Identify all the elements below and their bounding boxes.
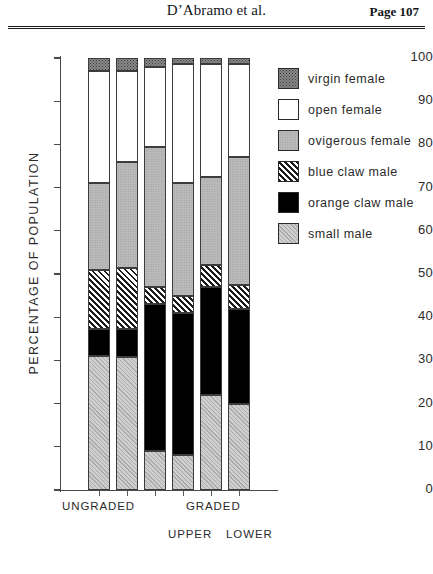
bar-column [116, 58, 138, 490]
bar-segment-ovigerous-female [116, 162, 138, 268]
x-label-ungraded: UNGRADED [62, 500, 135, 512]
legend-label: blue claw male [308, 165, 398, 179]
bar-segment-small-male [200, 395, 222, 490]
bar-segment-small-male [172, 455, 194, 490]
bar-segment-open-female [172, 64, 194, 183]
legend-item: ovigerous female [278, 128, 428, 159]
bar-segment-virgin-female [228, 58, 250, 64]
x-tick-mark [183, 490, 184, 496]
y-tick-label: 50 [387, 265, 433, 280]
legend-label: orange claw male [308, 196, 414, 210]
bar-segment-ovigerous-female [144, 147, 166, 287]
legend-swatch-small-male [278, 223, 299, 244]
legend-item: small male [278, 221, 428, 252]
bar-column [200, 58, 222, 490]
y-tick-label: 30 [387, 351, 433, 366]
page-header: D’Abramo et al. Page 107 [0, 0, 433, 34]
legend-item: orange claw male [278, 190, 428, 221]
legend-label: small male [308, 227, 373, 241]
bar-segment-blue-claw-male [144, 287, 166, 304]
bar-column [228, 58, 250, 490]
legend-item: open female [278, 97, 428, 128]
legend-swatch-ovigerous-female [278, 130, 299, 151]
header-divider-rule [8, 26, 425, 29]
bar-segment-virgin-female [200, 58, 222, 64]
legend-swatch-open-female [278, 99, 299, 120]
legend-swatch-virgin-female [278, 68, 299, 89]
x-tick-mark [211, 490, 212, 496]
bar-segment-orange-claw-male [116, 329, 138, 357]
y-axis-title: PERCENTAGE OF POPULATION [27, 133, 41, 393]
bar-segment-orange-claw-male [88, 329, 110, 356]
y-tick-label: 0 [387, 481, 433, 496]
bar-column [144, 58, 166, 490]
chart-legend: virgin femaleopen femaleovigerous female… [278, 66, 428, 252]
bar-segment-open-female [144, 67, 166, 147]
bar-segment-orange-claw-male [228, 309, 250, 404]
bar-segment-virgin-female [88, 58, 110, 71]
running-head-title: D’Abramo et al. [0, 2, 433, 19]
legend-swatch-orange-claw-male [278, 192, 299, 213]
x-axis-line [60, 490, 278, 491]
bar-segment-virgin-female [144, 58, 166, 67]
legend-label: ovigerous female [308, 134, 411, 148]
bar-segment-ovigerous-female [228, 157, 250, 284]
legend-label: virgin female [308, 72, 385, 86]
x-tick-mark [239, 490, 240, 496]
page-number-label: Page 107 [370, 4, 419, 20]
bar-segment-blue-claw-male [228, 285, 250, 309]
bar-segment-virgin-female [116, 58, 138, 71]
y-tick-label: 100 [387, 49, 433, 64]
y-tick-label: 10 [387, 438, 433, 453]
bar-segment-open-female [228, 64, 250, 157]
bar-segment-orange-claw-male [144, 304, 166, 451]
x-label-upper: UPPER [168, 528, 212, 540]
legend-item: blue claw male [278, 159, 428, 190]
bar-segment-blue-claw-male [88, 270, 110, 329]
plot-area [60, 58, 272, 490]
bar-segment-ovigerous-female [200, 177, 222, 266]
bar-segment-small-male [144, 451, 166, 490]
x-tick-mark [155, 490, 156, 496]
bar-segment-small-male [116, 357, 138, 490]
x-tick-mark [99, 490, 100, 496]
bar-segment-blue-claw-male [172, 296, 194, 313]
bar-segment-small-male [88, 356, 110, 490]
bar-segment-open-female [200, 64, 222, 176]
bar-segment-blue-claw-male [200, 265, 222, 287]
bar-segment-blue-claw-male [116, 268, 138, 329]
bar-segment-open-female [88, 71, 110, 183]
x-tick-mark [127, 490, 128, 496]
y-tick-label: 20 [387, 395, 433, 410]
bar-column [88, 58, 110, 490]
bar-segment-orange-claw-male [200, 287, 222, 395]
bar-segment-open-female [116, 71, 138, 162]
bar-segment-small-male [228, 404, 250, 490]
bar-column [172, 58, 194, 490]
stacked-bar-chart-figure: PERCENTAGE OF POPULATION 100908070605040… [0, 34, 433, 574]
legend-item: virgin female [278, 66, 428, 97]
bar-segment-ovigerous-female [88, 183, 110, 269]
x-label-graded: GRADED [186, 500, 241, 512]
legend-swatch-blue-claw-male [278, 161, 299, 182]
legend-label: open female [308, 103, 382, 117]
bar-segment-virgin-female [172, 58, 194, 64]
x-label-lower: LOWER [226, 528, 273, 540]
bar-segment-orange-claw-male [172, 313, 194, 456]
y-tick-label: 40 [387, 308, 433, 323]
bar-segment-ovigerous-female [172, 183, 194, 295]
